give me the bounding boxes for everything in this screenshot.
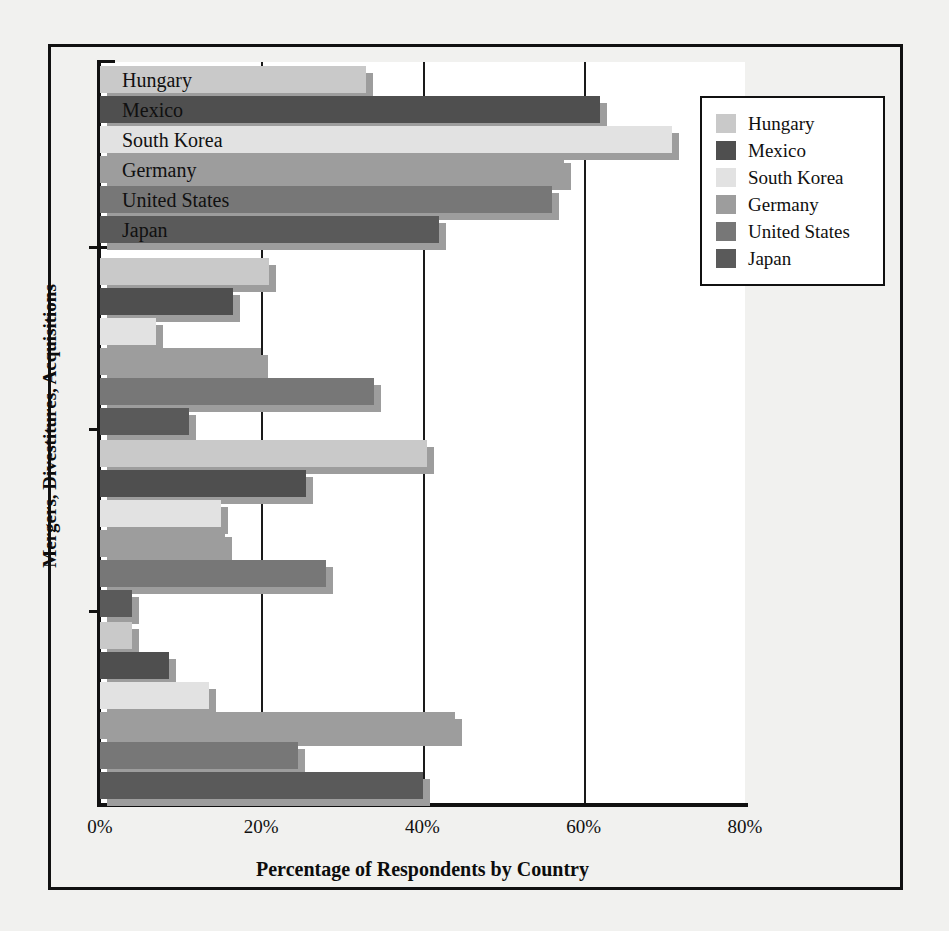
legend-label: South Korea (748, 167, 844, 189)
bar-fill (100, 288, 233, 315)
bar (100, 500, 221, 527)
gridline (584, 62, 586, 805)
bar-country-label: South Korea (122, 128, 223, 151)
bar-shadow-right (132, 597, 139, 624)
x-tick-label: 20% (244, 816, 279, 838)
legend-label: Hungary (748, 113, 814, 135)
legend-swatch-icon (716, 195, 736, 214)
bar (100, 378, 374, 405)
bar (100, 408, 189, 435)
bar-fill (100, 470, 306, 497)
bar-fill (100, 500, 221, 527)
bar-fill (100, 652, 169, 679)
bar: United States (100, 186, 552, 213)
bar-shadow-right (564, 163, 571, 190)
bar-fill (100, 318, 156, 345)
bar (100, 652, 169, 679)
bar-fill (100, 742, 298, 769)
bar: Hungary (100, 66, 366, 93)
legend-swatch-icon (716, 141, 736, 160)
bar-shadow-right (427, 447, 434, 474)
legend-box: HungaryMexicoSouth KoreaGermanyUnited St… (700, 96, 885, 286)
bar-fill (100, 622, 132, 649)
bar: Mexico (100, 96, 600, 123)
legend-item: Hungary (716, 110, 873, 137)
bar-country-label: Mexico (122, 98, 183, 121)
bar (100, 348, 261, 375)
bar (100, 318, 156, 345)
bar (100, 560, 326, 587)
y-axis-cap (101, 60, 115, 63)
bar-fill (100, 258, 269, 285)
bar (100, 590, 132, 617)
y-axis-title: Mergers, Divestitures, Acquisitions (39, 76, 61, 776)
bar (100, 622, 132, 649)
bar (100, 440, 427, 467)
bar-shadow-right (455, 719, 462, 746)
legend-label: Japan (748, 248, 791, 270)
legend-label: Germany (748, 194, 819, 216)
bar: South Korea (100, 126, 672, 153)
bar-shadow-right (269, 265, 276, 292)
bar (100, 258, 269, 285)
legend-item: Japan (716, 245, 873, 272)
bar-shadow-right (552, 193, 559, 220)
legend-swatch-icon (716, 114, 736, 133)
legend-swatch-icon (716, 168, 736, 187)
bar-shadow-right (326, 567, 333, 594)
bar-shadow-right (672, 133, 679, 160)
x-tick-label: 60% (566, 816, 601, 838)
bar (100, 712, 455, 739)
legend-item: South Korea (716, 164, 873, 191)
bar (100, 530, 225, 557)
legend-swatch-icon (716, 249, 736, 268)
legend-item: Mexico (716, 137, 873, 164)
bar-fill (100, 590, 132, 617)
bar-shadow-bottom (107, 587, 333, 594)
bar (100, 288, 233, 315)
bar-fill (100, 378, 374, 405)
bar-fill (100, 408, 189, 435)
bar (100, 682, 209, 709)
bar-country-label: Hungary (122, 68, 192, 91)
bar-fill (100, 772, 423, 799)
legend-item: United States (716, 218, 873, 245)
bar: Japan (100, 216, 439, 243)
bar-country-label: Germany (122, 158, 196, 181)
bar-fill (100, 530, 225, 557)
bar-shadow-right (439, 223, 446, 250)
bar-shadow-bottom (107, 799, 430, 806)
legend-swatch-icon (716, 222, 736, 241)
y-axis-group-tick (89, 246, 101, 249)
bar-shadow-right (423, 779, 430, 806)
bar-shadow-right (374, 385, 381, 412)
legend-label: United States (748, 221, 850, 243)
x-tick-label: 80% (728, 816, 763, 838)
bar-shadow-bottom (107, 243, 446, 250)
bar-shadow-right (189, 415, 196, 442)
x-axis-title: Percentage of Respondents by Country (100, 858, 745, 881)
legend-label: Mexico (748, 140, 806, 162)
bar-fill (100, 348, 261, 375)
figure-root: HungaryMexicoSouth KoreaGermanyUnited St… (0, 0, 949, 931)
bar-fill (100, 712, 455, 739)
legend-item: Germany (716, 191, 873, 218)
bar-shadow-right (306, 477, 313, 504)
bar-shadow-right (233, 295, 240, 322)
bar-country-label: United States (122, 188, 229, 211)
bar-fill (100, 440, 427, 467)
bar-fill (100, 560, 326, 587)
bar: Germany (100, 156, 564, 183)
bar (100, 470, 306, 497)
bar (100, 742, 298, 769)
bar-fill (100, 682, 209, 709)
x-tick-label: 0% (87, 816, 112, 838)
x-tick-label: 40% (405, 816, 440, 838)
bar (100, 772, 423, 799)
bar-country-label: Japan (122, 218, 168, 241)
